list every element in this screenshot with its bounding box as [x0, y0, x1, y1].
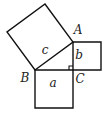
label-vertex-c: C [75, 72, 84, 86]
label-side-b: b [75, 48, 83, 62]
label-vertex-a: A [73, 23, 83, 37]
label-vertex-b: B [20, 71, 30, 85]
label-side-a: a [49, 76, 56, 90]
pythagorean-diagram: c b a A B C [0, 0, 108, 113]
label-side-c: c [42, 43, 49, 57]
square-c [7, 4, 73, 70]
